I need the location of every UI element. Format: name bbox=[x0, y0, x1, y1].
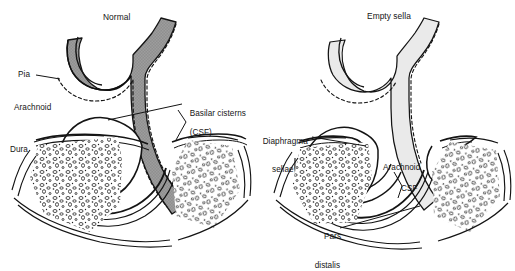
panel-title-empty-sella: Empty sella bbox=[367, 12, 411, 22]
panel-title-normal: Normal bbox=[103, 13, 130, 23]
label-dura: Dura bbox=[10, 145, 28, 155]
label-diaphragma-sellae-line1: Diaphragma bbox=[263, 137, 308, 146]
label-pars-distalis: Pars distalis bbox=[310, 213, 341, 271]
label-basilar-cisterns: Basilar cisterns (CSF) bbox=[185, 99, 246, 137]
label-basilar-cisterns-line1: Basilar cisterns bbox=[190, 109, 246, 118]
label-arachnoid-right: Arachnoid bbox=[383, 163, 420, 173]
label-diaphragma-sellae-line2: sellae bbox=[258, 165, 308, 175]
label-arachnoid-left: Arachnoid bbox=[14, 103, 51, 113]
label-pars-distalis-line2: distalis bbox=[315, 261, 340, 270]
label-diaphragma-sellae: Diaphragma sellae bbox=[258, 127, 308, 185]
label-pars-distalis-line1: Pars bbox=[310, 232, 341, 242]
label-csf: CSF bbox=[401, 184, 418, 194]
label-pia: Pia bbox=[18, 70, 30, 80]
label-basilar-cisterns-line2: (CSF) bbox=[190, 128, 212, 137]
